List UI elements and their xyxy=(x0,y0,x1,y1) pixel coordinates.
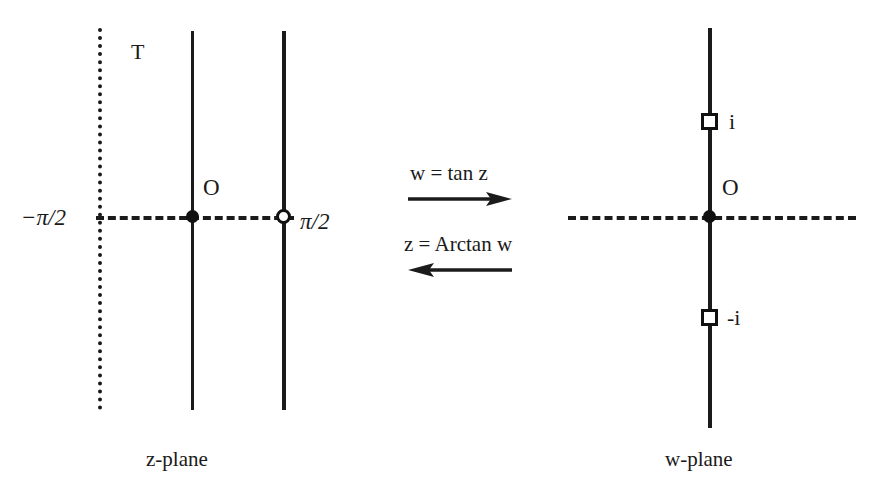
z-plane-right-boundary-marker xyxy=(276,209,291,224)
w-plane-lower-marker-label: -i xyxy=(727,307,740,329)
w-plane-origin-marker xyxy=(703,210,716,223)
w-plane-caption: w-plane xyxy=(665,449,733,470)
w-plane-upper-marker-label: i xyxy=(729,111,735,133)
complex-mapping-figure: T O −π/2 π/2 z-plane w = tan z z = Arcta… xyxy=(0,0,883,496)
inverse-mapping-label: z = Arctan w xyxy=(404,234,512,255)
w-plane-origin-label: O xyxy=(722,176,739,199)
z-plane-caption: z-plane xyxy=(146,449,208,470)
z-plane-origin-label: O xyxy=(203,176,220,199)
z-plane-right-boundary-label: π/2 xyxy=(300,210,329,233)
z-plane-origin-marker xyxy=(186,210,199,223)
inverse-mapping-arrow-icon xyxy=(406,261,512,279)
w-plane-upper-branch-point-marker xyxy=(701,113,718,130)
forward-mapping-label: w = tan z xyxy=(410,163,488,184)
forward-mapping-arrow-icon xyxy=(408,190,514,208)
w-plane-lower-branch-point-marker xyxy=(701,309,718,326)
z-plane-region-label: T xyxy=(131,41,144,63)
w-plane-imaginary-axis-line xyxy=(708,28,712,428)
z-plane-left-boundary-label: −π/2 xyxy=(21,206,66,229)
